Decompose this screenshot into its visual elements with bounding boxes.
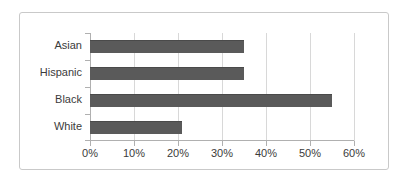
category-label-hispanic: Hispanic bbox=[40, 65, 82, 79]
x-tick-label-10: 10% bbox=[123, 147, 145, 159]
bar-hispanic bbox=[90, 67, 244, 80]
category-label-white: White bbox=[54, 119, 82, 133]
x-tick-label-60: 60% bbox=[343, 147, 365, 159]
x-tick-label-30: 30% bbox=[211, 147, 233, 159]
x-axis-tick bbox=[266, 141, 267, 146]
gridline-60 bbox=[354, 33, 355, 141]
y-axis-tick bbox=[85, 114, 90, 115]
gridline-50 bbox=[310, 33, 311, 141]
chart-frame: Asian Hispanic Black White 0% 10% 20% 30… bbox=[19, 12, 389, 170]
y-axis-tick bbox=[85, 87, 90, 88]
x-axis-tick bbox=[90, 141, 91, 146]
x-axis-tick bbox=[354, 141, 355, 146]
y-axis-tick bbox=[85, 33, 90, 34]
category-label-black: Black bbox=[55, 92, 82, 106]
x-axis-tick bbox=[310, 141, 311, 146]
x-tick-label-50: 50% bbox=[299, 147, 321, 159]
plot-area: Asian Hispanic Black White 0% 10% 20% 30… bbox=[90, 33, 372, 141]
x-axis-tick bbox=[222, 141, 223, 146]
x-tick-label-0: 0% bbox=[82, 147, 98, 159]
x-tick-label-20: 20% bbox=[167, 147, 189, 159]
x-axis-tick bbox=[134, 141, 135, 146]
x-axis-tick bbox=[178, 141, 179, 146]
bar-black bbox=[90, 94, 332, 107]
y-axis-tick bbox=[85, 60, 90, 61]
category-label-asian: Asian bbox=[54, 38, 82, 52]
x-tick-label-40: 40% bbox=[255, 147, 277, 159]
gridline-40 bbox=[266, 33, 267, 141]
bar-white bbox=[90, 121, 182, 134]
bar-asian bbox=[90, 40, 244, 53]
